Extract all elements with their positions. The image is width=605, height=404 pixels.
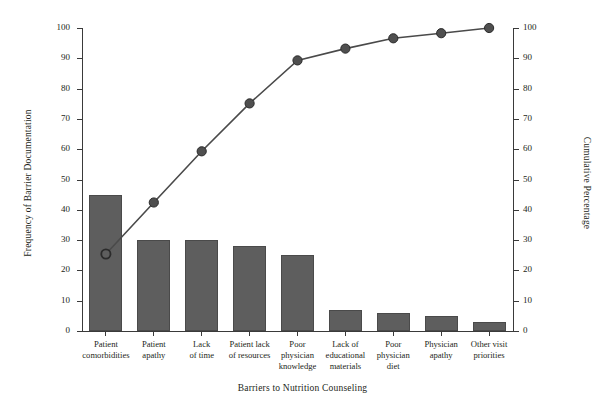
y-axis-left-tick-label: 50 [42,175,70,184]
y-axis-left-tick [77,301,82,302]
x-axis-category-label: Other visit priorities [463,339,515,361]
y-axis-left-tick-label: 100 [42,23,70,32]
cumulative-data-point [389,34,398,43]
y-axis-left-tick [77,240,82,241]
x-axis-tick [153,332,154,336]
cumulative-data-point [197,147,206,156]
y-axis-right-tick-label: 60 [523,144,551,153]
y-axis-right-tick-label: 70 [523,114,551,123]
y-axis-right-tick [514,58,519,59]
x-axis-category-label: Lack of educational materials [319,339,371,372]
y-axis-right-tick-label: 10 [523,296,551,305]
bar [329,310,362,331]
y-axis-right-title: Cumulative Percentage [582,83,592,283]
cumulative-data-point [485,23,494,32]
bar [281,255,314,331]
y-axis-left-tick-label: 40 [42,205,70,214]
y-axis-left-tick [77,180,82,181]
bar [233,246,266,331]
x-axis-tick [201,332,202,336]
y-axis-left-tick-label: 90 [42,53,70,62]
cumulative-data-point [293,56,302,65]
x-axis-category-label: Poor physician diet [367,339,419,372]
y-axis-left-tick [77,270,82,271]
y-axis-right-tick [514,240,519,241]
y-axis-right-tick-label: 100 [523,23,551,32]
x-axis-category-label: Physician apathy [415,339,467,361]
x-axis-tick [345,332,346,336]
y-axis-left-line [82,28,83,332]
y-axis-left-tick-label: 30 [42,235,70,244]
y-axis-left-tick [77,89,82,90]
y-axis-left-tick [77,331,82,332]
y-axis-left-tick-label: 0 [42,326,70,335]
x-axis-tick [441,332,442,336]
y-axis-right-tick-label: 40 [523,205,551,214]
y-axis-left-tick [77,119,82,120]
x-axis-tick [249,332,250,336]
y-axis-right-tick [514,270,519,271]
y-axis-right-tick-label: 50 [523,175,551,184]
y-axis-left-tick-label: 70 [42,114,70,123]
bar [89,195,122,331]
y-axis-right-tick [514,331,519,332]
y-axis-left-tick-label: 20 [42,265,70,274]
x-axis-tick [105,332,106,336]
cumulative-data-point [341,44,350,53]
x-axis-tick [297,332,298,336]
y-axis-right-tick-label: 20 [523,265,551,274]
y-axis-right-tick-label: 80 [523,84,551,93]
x-axis-category-label: Patient apathy [128,339,180,361]
y-axis-left-tick [77,58,82,59]
x-axis-title: Barriers to Nutrition Counseling [0,383,605,393]
x-axis-tick [489,332,490,336]
y-axis-right-tick [514,119,519,120]
bar [377,313,410,331]
y-axis-left-tick [77,149,82,150]
x-axis-tick [393,332,394,336]
x-axis-category-label: Poor physician knowledge [272,339,324,372]
y-axis-right-tick [514,210,519,211]
bar [425,316,458,331]
y-axis-right-tick-label: 90 [523,53,551,62]
y-axis-right-tick-label: 0 [523,326,551,335]
x-axis-category-label: Lack of time [176,339,228,361]
pareto-chart: Frequency of Barrier Documentation Cumul… [0,0,605,404]
y-axis-right-tick-label: 30 [523,235,551,244]
cumulative-percentage-line [106,28,489,254]
y-axis-left-tick [77,28,82,29]
y-axis-right-tick [514,301,519,302]
cumulative-data-point [437,29,446,38]
bar [473,322,506,331]
y-axis-left-tick-label: 10 [42,296,70,305]
y-axis-right-tick [514,89,519,90]
bar [185,240,218,331]
y-axis-left-tick [77,210,82,211]
y-axis-left-title: Frequency of Barrier Documentation [23,83,33,283]
y-axis-left-tick-label: 60 [42,144,70,153]
y-axis-left-tick-label: 80 [42,84,70,93]
y-axis-right-tick [514,180,519,181]
bar [137,240,170,331]
y-axis-right-tick [514,28,519,29]
cumulative-data-point [245,99,254,108]
cumulative-data-point [149,198,158,207]
x-axis-category-label: Patient comorbidities [80,339,132,361]
x-axis-category-label: Patient lack of resources [224,339,276,361]
y-axis-right-tick [514,149,519,150]
